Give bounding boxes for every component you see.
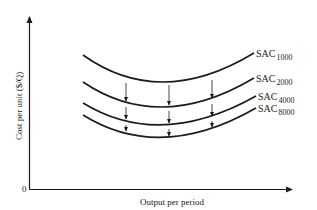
sac-4000-label: SAC [258, 91, 278, 102]
sac-2000-subscript: 2000 [276, 78, 292, 87]
sac-diagram: SAC1000 SAC2000 SAC4000 SAC8000 0 Output… [0, 0, 317, 210]
shift-arrows [126, 80, 212, 136]
origin-label: 0 [22, 184, 27, 194]
sac-1000-curve [83, 53, 254, 82]
sac-1000-subscript: 1000 [276, 53, 292, 62]
svg-text:SAC1000: SAC1000 [256, 48, 292, 62]
x-axis-label: Output per period [140, 197, 204, 207]
sac-8000-subscript: 8000 [278, 108, 294, 117]
svg-text:SAC2000: SAC2000 [256, 73, 292, 87]
sac-8000-curve [83, 108, 256, 137]
curve-labels: SAC1000 SAC2000 SAC4000 SAC8000 [256, 48, 294, 117]
sac-4000-subscript: 4000 [278, 96, 294, 105]
axes [30, 17, 293, 190]
diagram-canvas: SAC1000 SAC2000 SAC4000 SAC8000 0 Output… [0, 0, 317, 210]
sac-2000-label: SAC [256, 73, 276, 84]
svg-text:SAC8000: SAC8000 [258, 103, 294, 117]
sac-1000-label: SAC [256, 48, 276, 59]
sac-curves [83, 53, 256, 137]
y-axis-label: Cost per unit ($/Q) [14, 72, 24, 140]
sac-8000-label: SAC [258, 103, 278, 114]
